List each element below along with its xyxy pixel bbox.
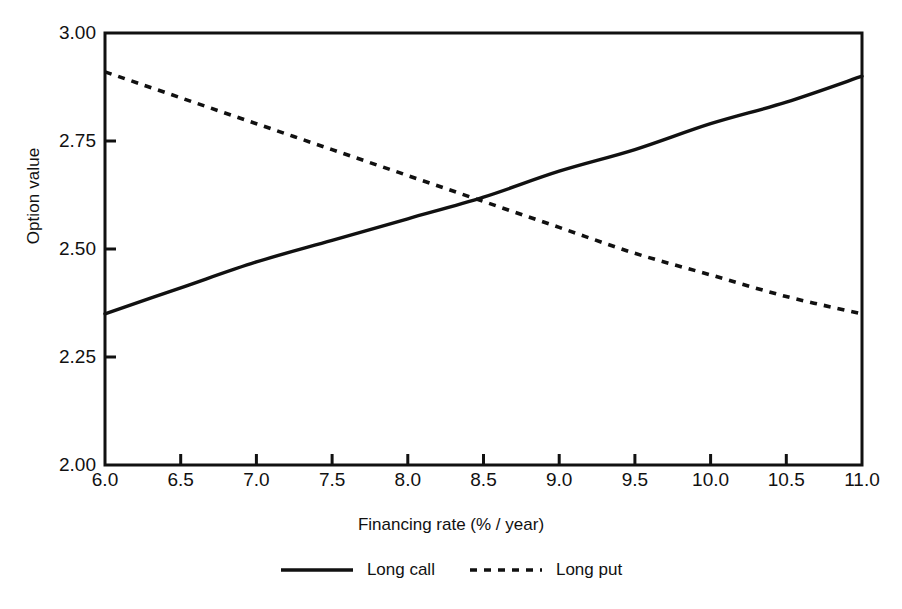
x-tick-label: 9.0 (524, 470, 594, 490)
x-tick-label: 8.0 (373, 470, 443, 490)
x-tick-label: 10.0 (676, 470, 746, 490)
x-tick-label: 10.5 (751, 470, 821, 490)
x-tick-label: 11.0 (827, 470, 897, 490)
legend-swatch-dashed-line-icon (469, 564, 543, 576)
legend-entry-long-call: Long call (280, 560, 435, 580)
legend-label-long-call: Long call (367, 560, 435, 580)
legend-entry-long-put: Long put (469, 560, 622, 580)
legend-label-long-put: Long put (556, 560, 622, 580)
x-tick-label: 6.0 (70, 470, 140, 490)
x-tick-label: 9.5 (600, 470, 670, 490)
x-tick-label: 7.5 (297, 470, 367, 490)
chart-figure: Option value 2.002.252.502.753.00 6.06.5… (0, 0, 902, 609)
x-tick-label: 6.5 (146, 470, 216, 490)
chart-legend: Long call Long put (0, 560, 902, 580)
x-tick-label: 7.0 (221, 470, 291, 490)
legend-swatch-solid-line-icon (280, 564, 354, 576)
x-axis-title: Financing rate (% / year) (0, 515, 902, 535)
x-tick-label: 8.5 (449, 470, 519, 490)
